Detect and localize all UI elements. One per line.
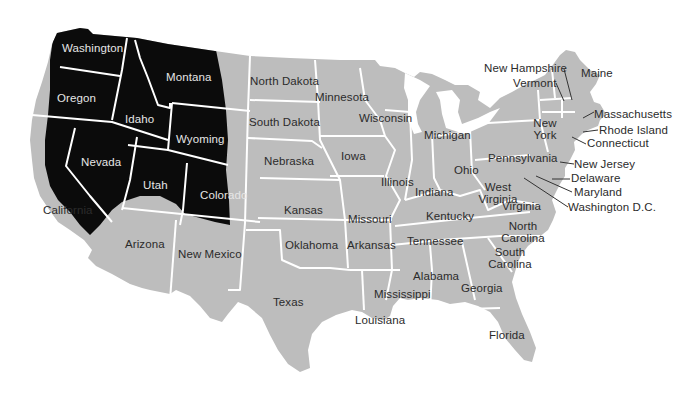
label-oklahoma: Oklahoma [285,239,338,251]
label-wyoming: Wyoming [176,133,225,145]
label-kentucky: Kentucky [426,210,474,222]
label-south-carolina: South Carolina [484,246,536,270]
label-minnesota: Minnesota [315,91,369,103]
label-north-carolina: North Carolina [497,220,549,244]
label-louisiana: Louisiana [355,314,405,326]
label-west-virginia: West Virginia [474,181,522,205]
label-rhode-island: Rhode Island [599,124,668,136]
label-florida: Florida [489,329,525,341]
label-tennessee: Tennessee [407,235,464,247]
label-arkansas: Arkansas [347,239,396,251]
label-colorado: Colorado [200,189,247,201]
label-vermont: Vermont [513,77,557,89]
label-indiana: Indiana [415,186,453,198]
label-washington-dc: Washington D.C. [568,201,656,213]
label-new-mexico: New Mexico [178,248,242,260]
label-alabama: Alabama [413,270,459,282]
label-oregon: Oregon [57,92,96,104]
label-south-dakota: South Dakota [249,116,320,128]
label-iowa: Iowa [341,150,366,162]
label-nebraska: Nebraska [264,155,314,167]
label-georgia: Georgia [461,282,503,294]
label-new-york: New York [530,117,560,141]
label-arizona: Arizona [125,238,165,250]
label-michigan: Michigan [424,129,471,141]
label-montana: Montana [166,71,211,83]
label-california: California [43,204,93,216]
label-connecticut: Connecticut [587,137,649,149]
label-new-hampshire: New Hampshire [484,62,567,74]
label-nevada: Nevada [81,156,121,168]
label-kansas: Kansas [284,204,323,216]
label-missouri: Missouri [348,213,392,225]
label-ohio: Ohio [454,164,479,176]
label-delaware: Delaware [571,172,620,184]
label-pennsylvania: Pennsylvania [488,152,558,164]
label-maryland: Maryland [574,186,622,198]
label-new-jersey: New Jersey [574,158,635,170]
label-mississippi: Mississippi [374,288,431,300]
label-illinois: Illinois [381,176,414,188]
label-massachusetts: Massachusetts [594,108,672,120]
label-utah: Utah [143,179,168,191]
label-texas: Texas [273,296,304,308]
label-washington: Washington [62,42,123,54]
label-north-dakota: North Dakota [250,75,319,87]
label-idaho: Idaho [125,113,154,125]
label-maine: Maine [581,67,613,79]
label-wisconsin: Wisconsin [359,112,412,124]
